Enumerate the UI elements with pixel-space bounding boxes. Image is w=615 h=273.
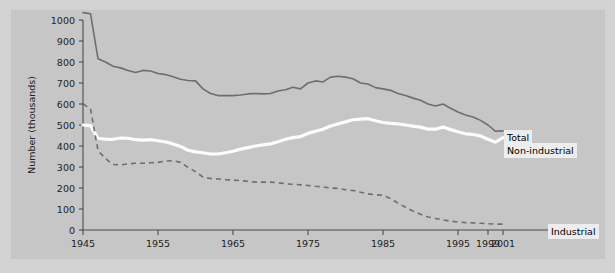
y-axis-ticks: 01002003004005006007008009001000 bbox=[51, 15, 83, 236]
y-tick-label: 900 bbox=[57, 36, 75, 47]
y-tick-label: 500 bbox=[57, 120, 75, 131]
y-tick-label: 400 bbox=[57, 141, 75, 152]
series-label-non-industrial: Non-industrial bbox=[504, 143, 577, 158]
y-tick-label: 600 bbox=[57, 99, 75, 110]
y-tick-label: 200 bbox=[57, 183, 75, 194]
y-tick-label: 1000 bbox=[51, 15, 75, 26]
series-line-industrial bbox=[83, 104, 503, 224]
series-label-industrial: Industrial bbox=[548, 224, 599, 239]
x-axis-ticks: 19451955196519751985199519992001 bbox=[71, 230, 515, 249]
chart-figure: 01002003004005006007008009001000 1945195… bbox=[0, 0, 615, 273]
x-tick-label: 1955 bbox=[146, 238, 170, 249]
x-tick-label: 1945 bbox=[71, 238, 95, 249]
series-label-total-text: Total bbox=[507, 132, 529, 143]
y-axis-title: Number (thousands) bbox=[26, 76, 37, 174]
x-tick-label: 2001 bbox=[491, 238, 515, 249]
y-tick-label: 700 bbox=[57, 78, 75, 89]
x-tick-label: 1975 bbox=[296, 238, 320, 249]
x-tick-label: 1995 bbox=[446, 238, 470, 249]
x-tick-label: 1965 bbox=[221, 238, 245, 249]
y-tick-label: 0 bbox=[69, 225, 75, 236]
series-label-industrial-text: Industrial bbox=[551, 226, 596, 237]
y-tick-label: 800 bbox=[57, 57, 75, 68]
x-tick-label: 1985 bbox=[371, 238, 395, 249]
y-tick-label: 100 bbox=[57, 204, 75, 215]
series-line-total bbox=[83, 13, 503, 132]
y-tick-label: 300 bbox=[57, 162, 75, 173]
series-line-non-industrial bbox=[83, 119, 503, 154]
series-label-non-industrial-text: Non-industrial bbox=[507, 145, 574, 156]
